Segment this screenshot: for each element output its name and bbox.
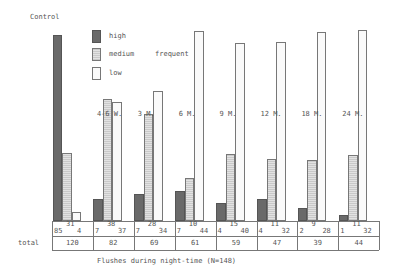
category-label: 6 M. <box>179 110 196 118</box>
bar-medium <box>307 160 317 221</box>
bar-low <box>235 43 245 221</box>
x-axis-title: Flushes during night-time (N=148) <box>97 257 236 265</box>
value-total: 69 <box>134 239 175 247</box>
control-label: Control <box>30 13 60 21</box>
category-label: 4-6 W. <box>97 110 122 118</box>
category-label: 3 M. <box>138 110 155 118</box>
bar-low <box>112 102 122 221</box>
value-high: 7 <box>136 227 140 235</box>
value-medium: 11 <box>271 220 279 228</box>
value-high: 2 <box>299 227 303 235</box>
bar-medium <box>267 159 277 221</box>
bar-high <box>134 194 144 221</box>
value-high: 4 <box>218 227 222 235</box>
value-medium: 10 <box>189 220 197 228</box>
bar-high <box>216 203 226 221</box>
value-low: 37 <box>118 227 126 235</box>
value-total: 61 <box>175 239 216 247</box>
value-low: 40 <box>241 227 249 235</box>
value-total: 120 <box>52 239 93 247</box>
value-low: 32 <box>363 227 371 235</box>
table-line <box>52 250 379 251</box>
total-row-label: total <box>18 239 39 247</box>
bar-medium <box>62 153 72 221</box>
bar-medium <box>226 154 236 221</box>
value-total: 44 <box>338 239 379 247</box>
legend-swatch-high <box>92 30 101 43</box>
value-medium: 11 <box>352 220 360 228</box>
category-label: 24 M. <box>342 110 363 118</box>
value-high: 1 <box>340 227 344 235</box>
value-total: 47 <box>257 239 298 247</box>
value-total: 39 <box>297 239 338 247</box>
legend-group-label: frequent <box>155 50 189 58</box>
category-label: 9 M. <box>220 110 237 118</box>
value-low: 4 <box>77 227 81 235</box>
value-medium: 31 <box>66 220 74 228</box>
category-label: 12 M. <box>261 110 282 118</box>
bar-high <box>93 199 103 221</box>
bar-low <box>317 32 327 221</box>
bar-low <box>153 91 163 221</box>
legend-label-medium: medium <box>109 50 134 58</box>
bar-medium <box>348 155 358 221</box>
value-low: 28 <box>322 227 330 235</box>
value-medium: 15 <box>230 220 238 228</box>
table-divider <box>379 221 380 250</box>
legend-swatch-medium <box>92 48 101 61</box>
value-high: 85 <box>54 227 62 235</box>
value-medium: 28 <box>148 220 156 228</box>
category-label: 18 M. <box>301 110 322 118</box>
value-total: 82 <box>93 239 134 247</box>
value-medium: 38 <box>107 220 115 228</box>
bar-medium <box>185 178 195 221</box>
value-high: 4 <box>259 227 263 235</box>
legend-label-low: low <box>109 69 122 77</box>
bar-high <box>298 208 308 221</box>
bar-low <box>194 31 204 221</box>
legend-label-high: high <box>109 32 126 40</box>
bar-high <box>257 199 267 221</box>
value-low: 32 <box>282 227 290 235</box>
bar-high <box>53 35 63 221</box>
bar-medium <box>144 114 154 221</box>
value-low: 44 <box>200 227 208 235</box>
bar-low <box>276 42 286 221</box>
value-medium: 9 <box>311 220 315 228</box>
bar-high <box>175 191 185 221</box>
value-total: 59 <box>216 239 257 247</box>
legend-swatch-low <box>92 67 101 80</box>
value-low: 34 <box>159 227 167 235</box>
bar-low <box>358 30 368 221</box>
value-high: 7 <box>177 227 181 235</box>
value-high: 7 <box>95 227 99 235</box>
